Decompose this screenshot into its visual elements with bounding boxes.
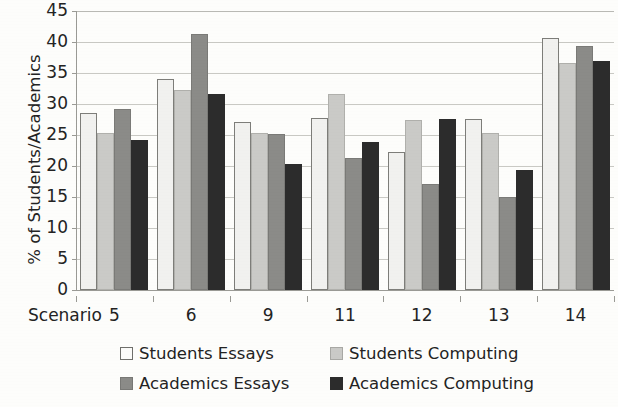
bar	[362, 142, 379, 290]
bar	[593, 61, 610, 290]
x-tick-mark	[153, 296, 154, 302]
legend-item[interactable]: Students Essays	[120, 344, 274, 363]
x-tick-label-11: 11	[315, 305, 375, 325]
bar	[97, 133, 114, 290]
bar	[285, 164, 302, 290]
bar-group	[542, 11, 610, 290]
bar	[131, 140, 148, 290]
bar	[576, 46, 593, 290]
x-tick-mark	[76, 296, 77, 302]
bar	[422, 184, 439, 290]
legend-item-label: Academics Computing	[349, 374, 534, 393]
x-tick-label-13: 13	[469, 305, 529, 325]
bar	[251, 133, 268, 290]
legend-item-label: Students Computing	[349, 344, 518, 363]
bar	[439, 119, 456, 290]
x-tick-mark	[460, 296, 461, 302]
bar	[559, 63, 576, 290]
bar	[174, 90, 191, 290]
legend-item-label: Academics Essays	[139, 374, 289, 393]
x-axis-line	[76, 290, 614, 291]
y-axis-title: % of Students/Academics	[25, 30, 44, 290]
academics-essays-swatch	[120, 377, 133, 390]
students-essays-swatch	[120, 347, 133, 360]
bar	[208, 94, 225, 290]
y-tick-label: 45	[28, 2, 68, 19]
bar	[499, 197, 516, 290]
legend-item[interactable]: Students Computing	[330, 344, 518, 363]
x-tick-mark	[383, 296, 384, 302]
x-tick-label-5: 5	[84, 305, 144, 325]
academics-computing-swatch	[330, 377, 343, 390]
bar	[405, 120, 422, 290]
x-tick-label-6: 6	[161, 305, 221, 325]
chart-legend: Students EssaysStudents ComputingAcademi…	[0, 342, 618, 402]
y-axis-line	[76, 11, 77, 290]
bar	[328, 94, 345, 290]
legend-item[interactable]: Academics Essays	[120, 374, 289, 393]
bar	[465, 119, 482, 290]
bar	[311, 118, 328, 290]
legend-item-label: Students Essays	[139, 344, 274, 363]
bar	[345, 158, 362, 290]
bar	[114, 109, 131, 290]
x-axis-tick-labels: 56911121314	[0, 296, 618, 330]
x-tick-label-9: 9	[238, 305, 298, 325]
bar-group	[465, 11, 533, 290]
bar	[80, 113, 97, 290]
bar	[268, 134, 285, 290]
bar	[157, 79, 174, 290]
bar	[482, 133, 499, 290]
x-tick-mark	[537, 296, 538, 302]
x-tick-mark	[230, 296, 231, 302]
bar	[516, 170, 533, 290]
x-tick-mark	[307, 296, 308, 302]
x-tick-mark	[614, 296, 615, 302]
bar-group	[157, 11, 225, 290]
bar-group	[388, 11, 456, 290]
bar	[542, 38, 559, 290]
x-tick-label-12: 12	[392, 305, 452, 325]
bar-chart-figure: 051015202530354045 % of Students/Academi…	[0, 0, 618, 407]
bar-group	[311, 11, 379, 290]
legend-item[interactable]: Academics Computing	[330, 374, 534, 393]
bar	[388, 152, 405, 290]
students-computing-swatch	[330, 347, 343, 360]
bar-group	[234, 11, 302, 290]
bar	[234, 122, 251, 290]
bar-group	[80, 11, 148, 290]
x-tick-label-14: 14	[546, 305, 606, 325]
bar	[191, 34, 208, 290]
plot-area	[76, 11, 614, 290]
